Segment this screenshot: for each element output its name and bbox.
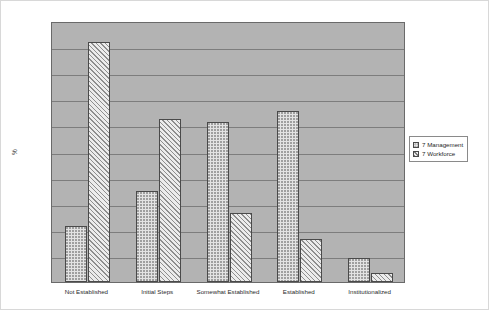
x-axis-tick-label: Somewhat Established <box>197 288 260 295</box>
bar-workforce[interactable] <box>230 213 252 282</box>
y-axis: % 0.500.450.400.350.300.250.200.150.100.… <box>0 0 51 311</box>
legend-swatch-hatched-icon <box>413 151 419 157</box>
x-axis-tick-label: Institutionalized <box>348 288 391 295</box>
bar-management[interactable] <box>65 226 87 282</box>
bar-management[interactable] <box>348 258 370 282</box>
plot-area <box>51 22 405 283</box>
bar-workforce[interactable] <box>88 42 110 282</box>
legend-label-series-1: 7 Management <box>422 141 463 148</box>
bar-management[interactable] <box>277 111 299 282</box>
bar-management[interactable] <box>207 122 229 282</box>
bar-workforce[interactable] <box>300 239 322 282</box>
bar-group <box>136 23 181 282</box>
legend-item-series-2[interactable]: 7 Workforce <box>413 149 463 158</box>
bar-group <box>65 23 110 282</box>
bar-group <box>207 23 252 282</box>
x-axis-tick-label: Not Established <box>65 288 108 295</box>
chart-legend[interactable]: 7 Management 7 Workforce <box>409 136 468 162</box>
bar-workforce[interactable] <box>159 119 181 282</box>
legend-label-series-2: 7 Workforce <box>422 150 455 157</box>
x-axis-tick-label: Initial Steps <box>141 288 173 295</box>
x-axis-tick-label: Established <box>283 288 315 295</box>
legend-swatch-dotted-icon <box>413 142 419 148</box>
bar-group <box>277 23 322 282</box>
bar-workforce[interactable] <box>371 273 393 282</box>
bar-management[interactable] <box>136 191 158 282</box>
legend-item-series-1[interactable]: 7 Management <box>413 140 463 149</box>
y-axis-title: % <box>11 149 18 155</box>
chart-figure: % 0.500.450.400.350.300.250.200.150.100.… <box>0 0 490 311</box>
bar-group <box>348 23 393 282</box>
